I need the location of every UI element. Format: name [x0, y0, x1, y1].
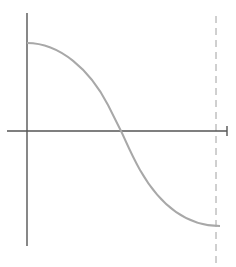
function-plot [0, 0, 236, 267]
cosine-curve [27, 43, 220, 226]
